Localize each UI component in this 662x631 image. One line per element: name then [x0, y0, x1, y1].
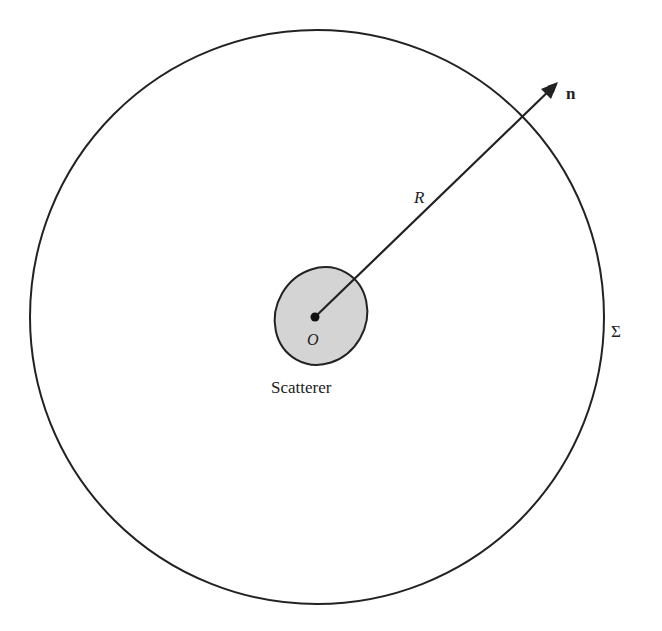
normal-label: n [566, 84, 576, 103]
scatterer-label: Scatterer [271, 378, 332, 397]
scattering-diagram: n R O Scatterer Σ [0, 0, 662, 631]
radius-vector-arrow [315, 84, 556, 317]
origin-label: O [307, 331, 319, 348]
radius-label: R [413, 188, 425, 207]
origin-point [311, 313, 320, 322]
scatterer-shape [257, 250, 385, 382]
surface-sigma-label: Σ [611, 322, 621, 341]
